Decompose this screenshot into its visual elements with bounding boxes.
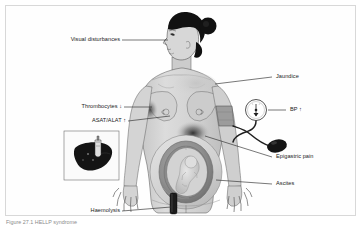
- head: [163, 12, 217, 60]
- label-thrombocytes: Thrombocytes ↓: [60, 104, 122, 110]
- liver-inset: [64, 131, 119, 180]
- label-bp: BP ↑: [290, 107, 302, 113]
- anatomical-illustration: [0, 0, 363, 233]
- right-hand: [227, 186, 252, 212]
- label-visual-disturbances: Visual disturbances: [58, 37, 120, 43]
- figure-caption: Figure 27.1 HELLP syndrome: [6, 219, 77, 225]
- figure-container: Visual disturbances Thrombocytes ↓ ASAT/…: [0, 0, 363, 233]
- label-jaundice: Jaundice: [276, 74, 299, 80]
- gallbladder: [95, 140, 101, 157]
- urine-sample-vial: [170, 193, 177, 214]
- sphygmomanometer: [233, 100, 288, 155]
- label-asat-alat: ASAT/ALAT ↑: [64, 118, 126, 124]
- label-epigastric-pain: Epigastric pain: [276, 154, 313, 160]
- leader-ascites: [216, 180, 272, 184]
- label-ascites: Ascites: [276, 181, 294, 187]
- bp-bulb: [266, 138, 288, 155]
- bp-cuff: [216, 106, 234, 126]
- leader-jaundice: [215, 77, 272, 84]
- body-figure: [113, 12, 252, 214]
- label-haemolysis: Haemolysis: [60, 208, 120, 214]
